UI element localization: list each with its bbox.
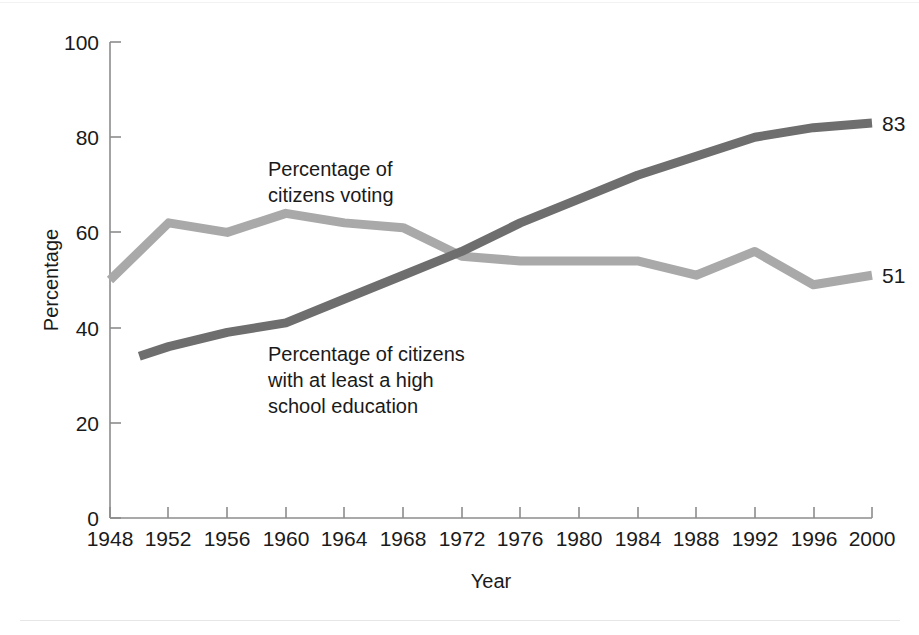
x-tick-label-1992: 1992 [732, 527, 779, 550]
y-tick-label-60: 60 [76, 221, 99, 244]
y-tick-label-20: 20 [76, 412, 99, 435]
y-axis-title: Percentage [40, 229, 62, 331]
x-axis-ticks [110, 507, 872, 518]
x-axis-title: Year [471, 570, 512, 592]
y-tick-label-100: 100 [64, 31, 99, 54]
chart-figure: 100 80 60 40 20 0 1948 1952 [0, 0, 919, 635]
end-label-education: 83 [882, 112, 905, 135]
series-line-education [139, 123, 872, 356]
education-annotation-line-2: with at least a high [267, 369, 434, 391]
x-tick-label-1996: 1996 [791, 527, 838, 550]
axes [110, 42, 872, 518]
education-annotation-line-1: Percentage of citizens [268, 343, 465, 365]
x-tick-label-1968: 1968 [380, 527, 427, 550]
x-tick-label-1948: 1948 [87, 527, 134, 550]
line-chart-plot: 100 80 60 40 20 0 1948 1952 [0, 0, 919, 635]
x-tick-label-1972: 1972 [439, 527, 486, 550]
education-annotation-line-3: school education [268, 395, 418, 417]
x-tick-label-1952: 1952 [145, 527, 192, 550]
series-line-voting [110, 213, 872, 284]
x-tick-label-1976: 1976 [497, 527, 544, 550]
x-tick-label-1960: 1960 [263, 527, 310, 550]
x-tick-label-1988: 1988 [673, 527, 720, 550]
x-axis-tick-labels: 1948 1952 1956 1960 1964 1968 1972 1976 … [87, 527, 896, 550]
voting-annotation-line-1: Percentage of [268, 158, 393, 180]
x-tick-label-2000: 2000 [849, 527, 896, 550]
y-axis-tick-labels: 100 80 60 40 20 0 [64, 31, 99, 530]
y-tick-label-80: 80 [76, 126, 99, 149]
y-tick-label-40: 40 [76, 317, 99, 340]
x-tick-label-1964: 1964 [321, 527, 368, 550]
voting-annotation-line-2: citizens voting [268, 184, 394, 206]
x-tick-label-1956: 1956 [204, 527, 251, 550]
education-annotation: Percentage of citizens with at least a h… [267, 343, 465, 417]
end-label-voting: 51 [882, 264, 905, 287]
x-tick-label-1980: 1980 [556, 527, 603, 550]
voting-annotation: Percentage of citizens voting [268, 158, 394, 206]
x-tick-label-1984: 1984 [615, 527, 662, 550]
